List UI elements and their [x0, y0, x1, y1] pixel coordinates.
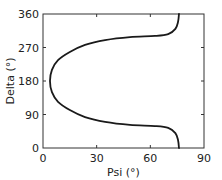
- y-tick-label: 90: [25, 109, 39, 122]
- x-tick-label: 0: [40, 152, 47, 165]
- psi-delta-chart: 090180270360 0306090 Psi (°) Delta (°): [0, 0, 222, 180]
- x-tick-label: 60: [143, 152, 157, 165]
- x-tick-label: 90: [197, 152, 211, 165]
- y-axis-title: Delta (°): [4, 58, 17, 105]
- x-axis-title: Psi (°): [107, 166, 140, 179]
- data-curve: [50, 14, 179, 148]
- x-tick-label: 30: [90, 152, 104, 165]
- plot-frame: [43, 14, 204, 148]
- y-tick-label: 180: [18, 75, 39, 88]
- y-tick-label: 0: [32, 142, 39, 155]
- y-tick-label: 270: [18, 42, 39, 55]
- y-tick-label: 360: [18, 8, 39, 21]
